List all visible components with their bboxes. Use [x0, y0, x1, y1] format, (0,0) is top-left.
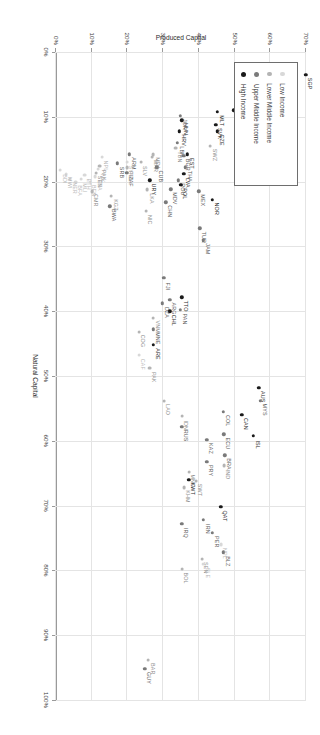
scatter-point [182, 486, 185, 489]
scatter-point [179, 114, 183, 118]
point-label: CHN [168, 205, 174, 217]
legend: Low Income Lower Middle Income Upper Mid… [234, 62, 298, 186]
y-tick [162, 48, 163, 52]
y-tick [126, 48, 127, 52]
point-label: FJI [165, 283, 171, 291]
scatter-point [304, 73, 308, 77]
scatter-point [180, 522, 184, 526]
scatter-point [179, 183, 183, 187]
scatter-point [152, 316, 155, 319]
point-label: QAT [223, 510, 229, 521]
x-tick-label: 20% [43, 175, 50, 187]
y-tick [269, 48, 270, 52]
y-tick [305, 48, 306, 52]
scatter-point [116, 162, 120, 166]
scatter-point [100, 155, 103, 158]
scatter-point [259, 399, 263, 403]
point-label: CAF [140, 359, 146, 370]
point-label: SRB [119, 167, 125, 178]
y-gridline [55, 52, 56, 700]
point-label: BOL [183, 573, 189, 584]
scatter-point [145, 188, 148, 191]
point-label: SLV [143, 166, 149, 176]
scatter-point [143, 667, 147, 671]
scatter-point [180, 425, 184, 429]
point-label: HRV [181, 134, 187, 146]
y-gridline [126, 52, 127, 700]
scatter-point [211, 198, 215, 202]
scatter-point [148, 367, 151, 370]
scatter-point [182, 154, 186, 158]
point-label: KAZ [208, 443, 214, 454]
y-tick [198, 48, 199, 52]
x-tick-label: 70% [43, 499, 50, 511]
scatter-point [176, 141, 180, 145]
y-tick-label: 30% [160, 33, 167, 45]
scatter-point [200, 557, 203, 560]
scatter-point [148, 179, 152, 183]
y-gridline [198, 52, 199, 700]
point-label: ZAF [128, 176, 134, 186]
point-label: IND [225, 470, 231, 480]
scatter-point [150, 155, 153, 158]
scatter-point [198, 226, 202, 230]
point-label: SWT [198, 484, 204, 496]
y-tick-label: 0% [53, 36, 60, 45]
scatter-point [211, 531, 215, 535]
point-label: NIC [148, 215, 154, 225]
point-label: TTO [183, 300, 189, 311]
point-label: PAK [151, 372, 157, 383]
point-label: KHM [185, 490, 191, 502]
y-tick-label: 50% [231, 33, 238, 45]
point-label: GUY [146, 672, 152, 684]
point-label: IRQ [183, 528, 189, 538]
scatter-point [127, 153, 131, 157]
scatter-point [219, 543, 222, 546]
scatter-point [94, 171, 97, 174]
y-tick-label: 40% [195, 33, 202, 45]
scatter-point [179, 308, 183, 312]
scatter-point [139, 161, 142, 164]
y-gridline [162, 52, 163, 700]
scatter-point [223, 453, 227, 457]
y-gridline [305, 52, 306, 700]
point-label: BEN [91, 185, 97, 196]
scatter-point [201, 238, 205, 242]
point-label: SWZ [212, 149, 218, 161]
legend-item: Low Income [276, 72, 289, 176]
x-tick-label: 0% [43, 48, 50, 57]
scatter-point [222, 464, 225, 467]
point-label: MEX [200, 194, 206, 206]
scatter-point [83, 174, 86, 177]
scatter-point [221, 410, 225, 414]
legend-swatch-lower-middle-income [267, 72, 271, 76]
scatter-point [205, 460, 209, 464]
scatter-point [182, 172, 186, 176]
x-tick-label: 60% [43, 435, 50, 447]
point-label: SLE [205, 568, 211, 579]
y-tick [55, 48, 56, 52]
point-label: LAO [165, 404, 171, 415]
scatter-point [108, 204, 112, 208]
scatter-point [151, 328, 155, 332]
scatter-point [94, 175, 97, 178]
scatter-point [186, 153, 190, 157]
scatter-point [197, 190, 201, 194]
x-tick-label: 30% [43, 240, 50, 252]
point-label: ARE [155, 348, 161, 359]
point-label: ECU [225, 437, 231, 449]
scatter-point [162, 276, 166, 280]
scatter-point [79, 177, 82, 180]
legend-item: High Income [237, 72, 250, 176]
scatter-point [251, 434, 255, 438]
scatter-point [164, 201, 168, 205]
scatter-point [125, 161, 128, 164]
point-label: BLZ [225, 556, 231, 566]
point-label: BDI [62, 174, 68, 183]
x-tick-label: 90% [43, 629, 50, 641]
scatter-point [161, 302, 165, 306]
point-label: MNE [155, 332, 161, 344]
scatter-point [205, 438, 209, 442]
scatter-point [137, 354, 140, 357]
point-label: PER [214, 536, 220, 547]
